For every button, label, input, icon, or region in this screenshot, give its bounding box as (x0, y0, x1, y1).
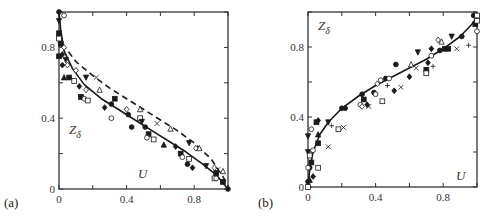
data-point-filled-diamond (392, 88, 397, 94)
y-tick-label: 0 (50, 183, 56, 195)
data-point-open-square (307, 153, 312, 158)
curve-solid (308, 17, 477, 187)
data-point-filled-circle (437, 48, 442, 53)
data-point-open-square (306, 185, 311, 190)
panel-a: 00.40.800.40.8(a)ZδU (4, 10, 230, 210)
data-point-open-circle (180, 155, 185, 160)
data-point-filled-tri-down (305, 134, 310, 139)
data-point-filled-circle (306, 179, 311, 184)
data-point-open-square (85, 98, 90, 103)
data-point-cross-x (94, 75, 99, 80)
data-point-filled-circle (459, 34, 464, 39)
data-point-plus (431, 64, 436, 69)
panel-label: (a) (4, 195, 18, 210)
data-point-open-circle (387, 76, 392, 81)
data-point-open-square (316, 165, 321, 170)
data-point-open-circle (378, 78, 383, 83)
data-point-open-diamond (124, 106, 129, 112)
data-point-filled-circle (126, 112, 131, 117)
data-point-filled-circle (393, 62, 398, 67)
data-point-filled-square (361, 97, 366, 102)
x-tick-label: 0.8 (436, 191, 450, 203)
x-tick-label: 0 (305, 191, 311, 203)
data-point-filled-tri-down (83, 75, 88, 80)
x-tick-label: 0 (56, 193, 62, 205)
data-point-open-circle (429, 53, 434, 58)
data-point-filled-diamond (311, 174, 316, 180)
data-point-filled-tri-down (186, 141, 191, 146)
x-tick-label: 0.4 (120, 193, 134, 205)
data-point-filled-square (221, 180, 226, 185)
data-point-filled-circle (226, 187, 231, 192)
data-point-cross-x (414, 66, 419, 71)
y-tick-label: 0.4 (41, 112, 55, 124)
x-tick-label: 0.8 (187, 193, 201, 205)
data-point-open-square (475, 18, 480, 23)
data-point-filled-square (309, 160, 314, 165)
x-axis-label: U (138, 166, 149, 181)
data-point-filled-square (58, 41, 63, 46)
y-tick-label: 0.8 (41, 41, 55, 53)
data-point-cross-x (399, 85, 404, 90)
data-point-filled-square (57, 31, 62, 36)
data-point-open-circle (475, 29, 480, 34)
data-point-filled-tri-up (61, 75, 66, 80)
data-point-open-circle (109, 116, 114, 121)
data-point-filled-diamond (407, 74, 412, 80)
data-point-open-square (424, 71, 429, 76)
data-point-cross-x (454, 46, 459, 51)
data-point-open-circle (311, 148, 316, 153)
data-point-filled-square (446, 46, 451, 51)
data-point-plus (329, 123, 334, 128)
y-tick-label: 0.4 (290, 111, 304, 123)
data-point-open-square (475, 13, 480, 18)
data-point-open-circle (62, 13, 67, 18)
data-point-open-circle (373, 92, 378, 97)
data-point-filled-circle (360, 92, 365, 97)
data-point-open-tri-up (220, 168, 225, 173)
data-point-filled-diamond (77, 83, 82, 89)
data-point-filled-circle (185, 162, 190, 167)
data-point-filled-diamond (426, 60, 431, 66)
data-point-open-circle (144, 135, 149, 140)
data-point-filled-tri-down (415, 50, 420, 55)
y-tick-label: 0 (299, 181, 305, 193)
figure: 00.40.800.40.8(a)ZδU 00.40.800.40.8(b)Zδ… (0, 0, 503, 217)
data-point-open-square (72, 79, 77, 84)
panel-b: 00.40.800.40.8(b)ZδU (258, 12, 479, 210)
y-tick-label: 0.8 (290, 41, 304, 53)
data-point-open-tri-up (97, 87, 102, 92)
data-point-open-circle (306, 165, 311, 170)
data-point-filled-square (112, 96, 117, 101)
data-point-open-tri-up (408, 62, 413, 67)
data-point-cross-x (326, 144, 331, 149)
data-point-filled-circle (343, 106, 348, 111)
data-point-plus (385, 83, 390, 88)
data-point-open-square (187, 157, 192, 162)
y-axis-label: Zδ (318, 18, 330, 36)
data-point-filled-tri-up (161, 142, 166, 147)
x-tick-label: 0.4 (369, 191, 383, 203)
y-axis-label: Zδ (69, 122, 81, 140)
data-point-filled-square (67, 75, 72, 80)
data-point-filled-tri-down (449, 34, 454, 39)
data-point-open-diamond (74, 68, 79, 74)
data-point-open-square (380, 99, 385, 104)
x-axis-label: U (456, 168, 467, 183)
data-point-filled-diamond (190, 165, 195, 171)
data-point-cross-x (341, 125, 346, 130)
data-point-plus (466, 43, 471, 48)
data-point-filled-diamond (102, 105, 107, 111)
data-point-open-circle (309, 127, 314, 132)
data-point-open-square (57, 36, 62, 41)
panel-label: (b) (258, 195, 273, 210)
data-point-filled-circle (143, 125, 148, 130)
data-point-filled-circle (109, 102, 114, 107)
data-point-filled-square (214, 171, 219, 176)
data-point-filled-circle (129, 125, 134, 130)
data-point-cross-x (155, 121, 160, 126)
data-point-open-square (336, 127, 341, 132)
data-point-open-square (151, 137, 156, 142)
data-point-open-tri-up (168, 126, 173, 131)
data-point-filled-diamond (429, 46, 434, 52)
